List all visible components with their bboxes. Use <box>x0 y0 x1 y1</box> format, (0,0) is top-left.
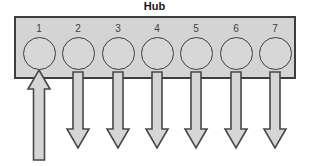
port-number-3: 3 <box>108 23 128 35</box>
port-circle-6 <box>220 37 253 70</box>
down-arrow-port-5 <box>185 72 207 148</box>
down-arrow-port-3 <box>107 72 129 148</box>
port-number-4: 4 <box>147 23 167 35</box>
down-arrow-port-2 <box>67 72 89 148</box>
down-arrow-port-4 <box>146 72 168 148</box>
port-circle-7 <box>259 37 292 70</box>
port-circle-4 <box>141 37 174 70</box>
down-arrow-port-7 <box>264 72 286 148</box>
port-circle-2 <box>62 37 95 70</box>
port-circle-3 <box>102 37 135 70</box>
port-number-1: 1 <box>29 23 49 35</box>
hub-diagram: Hub 1 2 3 4 5 6 7 <box>0 0 309 166</box>
down-arrow-port-6 <box>225 72 247 148</box>
port-number-5: 5 <box>186 23 206 35</box>
port-number-7: 7 <box>265 23 285 35</box>
port-circle-1 <box>23 37 56 70</box>
port-number-6: 6 <box>226 23 246 35</box>
up-arrow-port-1 <box>28 70 50 160</box>
port-number-2: 2 <box>68 23 88 35</box>
port-circle-5 <box>180 37 213 70</box>
